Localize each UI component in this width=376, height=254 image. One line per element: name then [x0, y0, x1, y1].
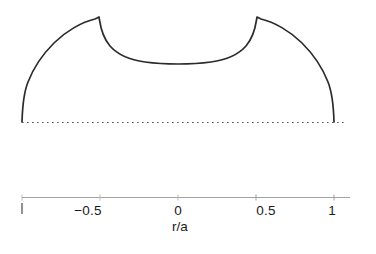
x-tick-label-pos05: 0.5	[234, 203, 298, 218]
figure-container: 1 −0.5 0 0.5 1 r/a	[0, 0, 376, 254]
x-tick-label-neg05: −0.5	[56, 203, 120, 218]
x-tick-label-pos1: 1	[318, 203, 346, 218]
x-tick-label-zero: 0	[155, 203, 201, 218]
profile-curve	[22, 17, 334, 122]
x-axis-title: r/a	[140, 219, 220, 234]
